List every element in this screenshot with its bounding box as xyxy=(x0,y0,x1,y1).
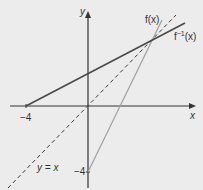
function-inverse-graph: x y −4 −4 f(x) f−1(x) y = x xyxy=(0,0,203,190)
x-tick-label: −4 xyxy=(20,112,32,123)
y-tick-label: −4 xyxy=(74,166,86,177)
x-axis-label: x xyxy=(189,110,196,121)
plot-area: x y −4 −4 f(x) f−1(x) y = x xyxy=(0,0,203,190)
f-inverse-label: f−1(x) xyxy=(174,30,196,42)
x-axis-arrow-icon xyxy=(189,103,196,109)
x-axis xyxy=(10,103,196,109)
y-axis-label: y xyxy=(79,6,86,17)
y-axis xyxy=(85,11,91,188)
f-inverse-line xyxy=(26,23,185,106)
identity-label: y = x xyxy=(36,162,59,173)
f-line xyxy=(88,20,162,172)
y-axis-arrow-icon xyxy=(85,11,91,18)
f-label: f(x) xyxy=(145,14,159,25)
